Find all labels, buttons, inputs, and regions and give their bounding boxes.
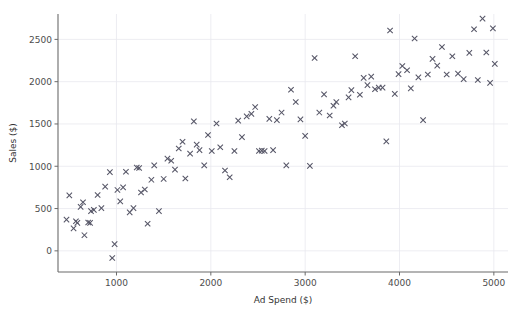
data-point-x-marker: [95, 192, 100, 197]
y-tick-label: 0: [46, 246, 52, 256]
data-point-x-marker: [270, 147, 275, 152]
data-point-x-marker: [252, 104, 257, 109]
data-point-x-marker: [64, 217, 69, 222]
data-point-x-marker: [334, 99, 339, 104]
data-point-x-marker: [357, 92, 362, 97]
data-point-x-marker: [284, 163, 289, 168]
data-point-x-marker: [152, 163, 157, 168]
data-point-x-marker: [161, 176, 166, 181]
data-point-x-marker: [218, 145, 223, 150]
y-tick-group: 05001000150020002500: [29, 35, 58, 256]
data-point-x-marker: [197, 147, 202, 152]
data-point-x-marker: [267, 116, 272, 121]
data-point-x-marker: [416, 75, 421, 80]
data-point-x-marker: [107, 169, 112, 174]
data-point-x-marker: [439, 44, 444, 49]
y-tick-label: 500: [35, 204, 52, 214]
data-point-x-marker: [490, 26, 495, 31]
data-point-x-marker: [227, 175, 232, 180]
x-tick-group: 10002000300040005000: [105, 272, 506, 288]
data-point-x-marker: [380, 85, 385, 90]
data-point-x-marker: [349, 87, 354, 92]
scatter-chart-figure: 10002000300040005000 0500100015002000250…: [0, 0, 525, 322]
data-point-group: [64, 16, 498, 261]
data-point-x-marker: [67, 193, 72, 198]
plot-canvas: 10002000300040005000 0500100015002000250…: [0, 0, 525, 322]
data-point-x-marker: [110, 255, 115, 260]
data-point-x-marker: [191, 119, 196, 124]
x-tick-label: 1000: [105, 278, 128, 288]
data-point-x-marker: [450, 54, 455, 59]
data-point-x-marker: [387, 28, 392, 33]
y-axis-label: Sales ($): [8, 123, 18, 163]
data-point-x-marker: [214, 121, 219, 126]
data-point-x-marker: [392, 91, 397, 96]
x-tick-label: 3000: [294, 278, 317, 288]
data-point-x-marker: [194, 142, 199, 147]
data-point-x-marker: [279, 110, 284, 115]
data-point-x-marker: [361, 75, 366, 80]
data-point-x-marker: [321, 92, 326, 97]
data-point-x-marker: [346, 95, 351, 100]
data-point-x-marker: [115, 187, 120, 192]
data-point-x-marker: [118, 199, 123, 204]
data-point-x-marker: [492, 61, 497, 66]
data-point-x-marker: [180, 139, 185, 144]
data-point-x-marker: [455, 71, 460, 76]
data-point-x-marker: [327, 113, 332, 118]
y-tick-label: 1000: [29, 162, 52, 172]
x-tick-label: 4000: [388, 278, 411, 288]
data-point-x-marker: [420, 117, 425, 122]
data-point-x-marker: [435, 63, 440, 68]
data-point-x-marker: [352, 54, 357, 59]
data-point-x-marker: [331, 103, 336, 108]
data-point-x-marker: [187, 151, 192, 156]
data-point-x-marker: [396, 71, 401, 76]
data-point-x-marker: [138, 190, 143, 195]
data-point-x-marker: [123, 169, 128, 174]
data-point-x-marker: [232, 148, 237, 153]
data-point-x-marker: [205, 132, 210, 137]
data-point-x-marker: [307, 163, 312, 168]
data-point-x-marker: [317, 110, 322, 115]
data-point-x-marker: [239, 134, 244, 139]
data-point-x-marker: [176, 146, 181, 151]
data-point-x-marker: [430, 56, 435, 61]
x-tick-label: 2000: [199, 278, 222, 288]
data-point-x-marker: [487, 80, 492, 85]
data-point-x-marker: [288, 87, 293, 92]
data-point-x-marker: [365, 82, 370, 87]
gridlines-group: [58, 14, 508, 272]
data-point-x-marker: [142, 187, 147, 192]
data-point-x-marker: [202, 163, 207, 168]
y-tick-label: 2000: [29, 77, 52, 87]
data-point-x-marker: [102, 184, 107, 189]
x-axis-label: Ad Spend ($): [254, 295, 313, 305]
data-point-x-marker: [369, 74, 374, 79]
data-point-x-marker: [484, 50, 489, 55]
data-point-x-marker: [209, 148, 214, 153]
data-point-x-marker: [75, 220, 80, 225]
data-point-x-marker: [425, 72, 430, 77]
data-point-x-marker: [298, 117, 303, 122]
data-point-x-marker: [480, 16, 485, 21]
data-point-x-marker: [384, 139, 389, 144]
data-point-x-marker: [99, 205, 104, 210]
data-point-x-marker: [461, 76, 466, 81]
data-point-x-marker: [145, 221, 150, 226]
data-point-x-marker: [82, 233, 87, 238]
data-point-x-marker: [471, 27, 476, 32]
data-point-x-marker: [156, 208, 161, 213]
data-point-x-marker: [444, 72, 449, 77]
data-point-x-marker: [172, 167, 177, 172]
data-point-x-marker: [293, 99, 298, 104]
y-tick-label: 1500: [29, 119, 52, 129]
data-point-x-marker: [71, 226, 76, 231]
data-point-x-marker: [120, 185, 125, 190]
axis-spines: [58, 14, 508, 272]
data-point-x-marker: [404, 68, 409, 73]
data-point-x-marker: [408, 86, 413, 91]
y-tick-label: 2500: [29, 35, 52, 45]
data-point-x-marker: [412, 36, 417, 41]
data-point-x-marker: [131, 205, 136, 210]
